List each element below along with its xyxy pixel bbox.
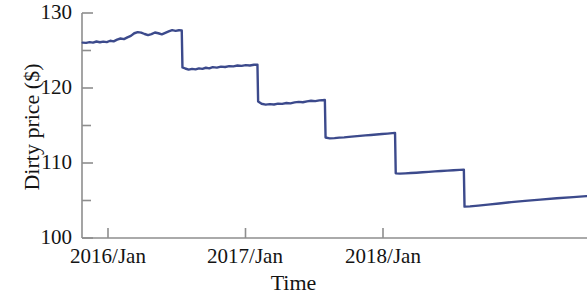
x-tick-label-2018-jan: 2018/Jan bbox=[308, 246, 458, 267]
x-axis-ticks bbox=[108, 228, 383, 238]
x-tick-label-2017-jan: 2017/Jan bbox=[170, 246, 320, 267]
y-axis-title: Dirty price ($) bbox=[21, 12, 43, 242]
y-axis-ticks bbox=[82, 13, 93, 238]
price-series-line bbox=[83, 30, 587, 207]
x-axis-title: Time bbox=[0, 272, 587, 294]
dirty-price-line-chart: 130 120 110 100 2016/Jan 2017/Jan 2018/J… bbox=[0, 0, 587, 302]
axis-lines bbox=[82, 13, 587, 238]
x-tick-label-2016-jan: 2016/Jan bbox=[33, 246, 183, 267]
